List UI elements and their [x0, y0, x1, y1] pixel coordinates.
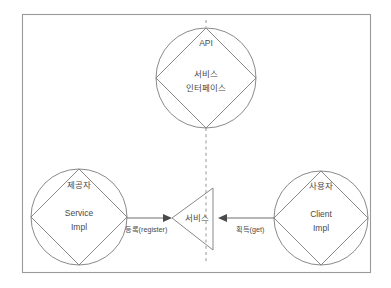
- node-api[interactable]: API 서비스 인터페이스: [156, 28, 256, 128]
- diagram-canvas: API 서비스 인터페이스 제공자 Service Impl 사용자 Clien…: [0, 0, 391, 288]
- node-provider-body-line2: Impl: [71, 222, 87, 232]
- service-registry-triangle[interactable]: 서비스: [172, 188, 213, 250]
- node-api-body-line2: 인터페이스: [186, 83, 226, 93]
- edge-get[interactable]: 획득(get): [218, 214, 274, 234]
- edge-register-label: 등록(register): [125, 225, 168, 234]
- node-consumer[interactable]: 사용자 Client Impl: [274, 171, 368, 265]
- node-consumer-body-line1: Client: [310, 209, 332, 219]
- node-consumer-body-line2: Impl: [313, 223, 329, 233]
- edge-register-arrowhead: [163, 214, 172, 222]
- node-provider-body-line1: Service: [65, 208, 94, 218]
- edge-get-label: 획득(get): [236, 225, 265, 234]
- node-api-body-line1: 서비스: [194, 69, 218, 79]
- edge-register[interactable]: 등록(register): [125, 214, 172, 234]
- node-consumer-title: 사용자: [309, 181, 333, 191]
- sos-service-oriented-architecture-diagram: API 서비스 인터페이스 제공자 Service Impl 사용자 Clien…: [0, 0, 391, 288]
- edge-get-arrowhead: [218, 214, 227, 222]
- diagram-border: [23, 15, 371, 273]
- node-provider-title: 제공자: [67, 180, 91, 190]
- node-provider[interactable]: 제공자 Service Impl: [31, 169, 127, 265]
- node-api-title: API: [199, 38, 213, 48]
- service-triangle-label: 서비스: [185, 213, 209, 223]
